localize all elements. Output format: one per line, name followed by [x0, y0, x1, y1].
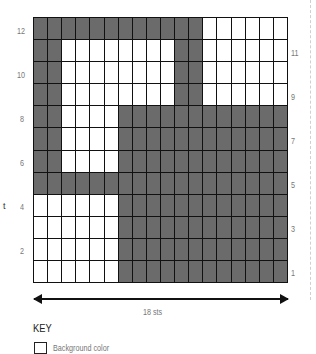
- chart-cell: [274, 261, 287, 282]
- chart-cell: [232, 239, 245, 260]
- chart-cell: [217, 261, 230, 282]
- chart-cell: [175, 239, 188, 260]
- chart-cell: [189, 106, 202, 127]
- chart-cell: [34, 151, 47, 172]
- chart-cell: [161, 62, 174, 83]
- chart-cell: [217, 18, 230, 39]
- chart-cell: [90, 173, 103, 194]
- chart-cell: [161, 128, 174, 149]
- chart-cell: [34, 18, 47, 39]
- chart-cell: [147, 173, 160, 194]
- chart-cell: [260, 239, 273, 260]
- chart-cell: [232, 84, 245, 105]
- chart-cell: [161, 217, 174, 238]
- chart-cell: [105, 261, 118, 282]
- chart-cell: [260, 18, 273, 39]
- chart-cell: [203, 84, 216, 105]
- chart-cell: [175, 40, 188, 61]
- chart-cell: [133, 217, 146, 238]
- chart-cell: [76, 128, 89, 149]
- chart-cell: [203, 151, 216, 172]
- chart-cell: [161, 40, 174, 61]
- chart-cell: [189, 239, 202, 260]
- chart-cell: [260, 106, 273, 127]
- chart-cell: [232, 18, 245, 39]
- chart-cell: [76, 40, 89, 61]
- chart-cell: [119, 195, 132, 216]
- chart-cell: [119, 173, 132, 194]
- chart-cell: [161, 261, 174, 282]
- chart-cell: [34, 84, 47, 105]
- width-double-arrow: [34, 298, 288, 300]
- chart-cell: [48, 84, 61, 105]
- chart-cell: [274, 40, 287, 61]
- chart-cell: [48, 128, 61, 149]
- chart-cell: [274, 106, 287, 127]
- row-label-11: 11: [291, 48, 298, 58]
- chart-cell: [260, 173, 273, 194]
- chart-cell: [217, 40, 230, 61]
- chart-cell: [105, 18, 118, 39]
- chart-cell: [133, 84, 146, 105]
- chart-cell: [48, 239, 61, 260]
- chart-cell: [133, 62, 146, 83]
- chart-cell: [175, 18, 188, 39]
- chart-cell: [260, 217, 273, 238]
- chart-cell: [133, 40, 146, 61]
- chart-cell: [105, 106, 118, 127]
- chart-cell: [105, 239, 118, 260]
- chart-cell: [147, 151, 160, 172]
- chart-cell: [274, 151, 287, 172]
- chart-cell: [189, 40, 202, 61]
- chart-cell: [105, 151, 118, 172]
- chart-cell: [175, 106, 188, 127]
- chart-cell: [48, 106, 61, 127]
- chart-cell: [260, 84, 273, 105]
- chart-cell: [232, 106, 245, 127]
- chart-cell: [217, 239, 230, 260]
- chart-cell: [62, 106, 75, 127]
- chart-cell: [90, 217, 103, 238]
- chart-cell: [76, 195, 89, 216]
- chart-cell: [217, 195, 230, 216]
- chart-cell: [133, 128, 146, 149]
- chart-cell: [274, 239, 287, 260]
- chart-cell: [232, 151, 245, 172]
- chart-cell: [147, 195, 160, 216]
- chart-cell: [62, 195, 75, 216]
- chart-cell: [48, 195, 61, 216]
- chart-cell: [274, 195, 287, 216]
- chart-cell: [246, 217, 259, 238]
- chart-cell: [246, 18, 259, 39]
- chart-cell: [119, 239, 132, 260]
- key-label-background: Background color: [53, 343, 109, 353]
- stitch-count-label: 18 sts: [143, 307, 162, 317]
- chart-cell: [260, 195, 273, 216]
- chart-cell: [260, 40, 273, 61]
- chart-cell: [203, 62, 216, 83]
- chart-cell: [34, 128, 47, 149]
- chart-cell: [260, 261, 273, 282]
- chart-cell: [246, 128, 259, 149]
- chart-cell: [90, 239, 103, 260]
- chart-cell: [62, 18, 75, 39]
- chart-cell: [161, 151, 174, 172]
- chart-cell: [34, 40, 47, 61]
- chart-cell: [246, 106, 259, 127]
- chart-cell: [90, 40, 103, 61]
- chart-cell: [217, 217, 230, 238]
- chart-cell: [246, 195, 259, 216]
- chart-cell: [189, 217, 202, 238]
- chart-cell: [175, 84, 188, 105]
- chart-cell: [189, 128, 202, 149]
- cropped-text-fragment: t: [3, 201, 6, 211]
- chart-cell: [147, 239, 160, 260]
- chart-cell: [147, 261, 160, 282]
- chart-cell: [260, 62, 273, 83]
- chart-cell: [76, 261, 89, 282]
- chart-cell: [119, 217, 132, 238]
- chart-cell: [161, 173, 174, 194]
- chart-cell: [76, 173, 89, 194]
- chart-cell: [76, 84, 89, 105]
- chart-cell: [175, 261, 188, 282]
